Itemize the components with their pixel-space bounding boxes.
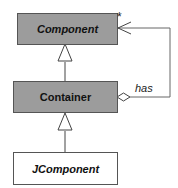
generalization-triangle-icon <box>58 113 72 130</box>
class-jcomponent: JComponent <box>13 152 118 185</box>
class-name: Container <box>40 91 91 103</box>
association-label: has <box>135 82 153 94</box>
class-name: Component <box>37 23 98 35</box>
class-container: Container <box>13 81 118 113</box>
generalization-triangle-icon <box>58 44 72 61</box>
multiplicity-label: * <box>117 10 122 24</box>
class-name: JComponent <box>32 163 99 175</box>
class-component: Component <box>17 13 118 45</box>
aggregation-diamond-icon <box>117 93 130 101</box>
